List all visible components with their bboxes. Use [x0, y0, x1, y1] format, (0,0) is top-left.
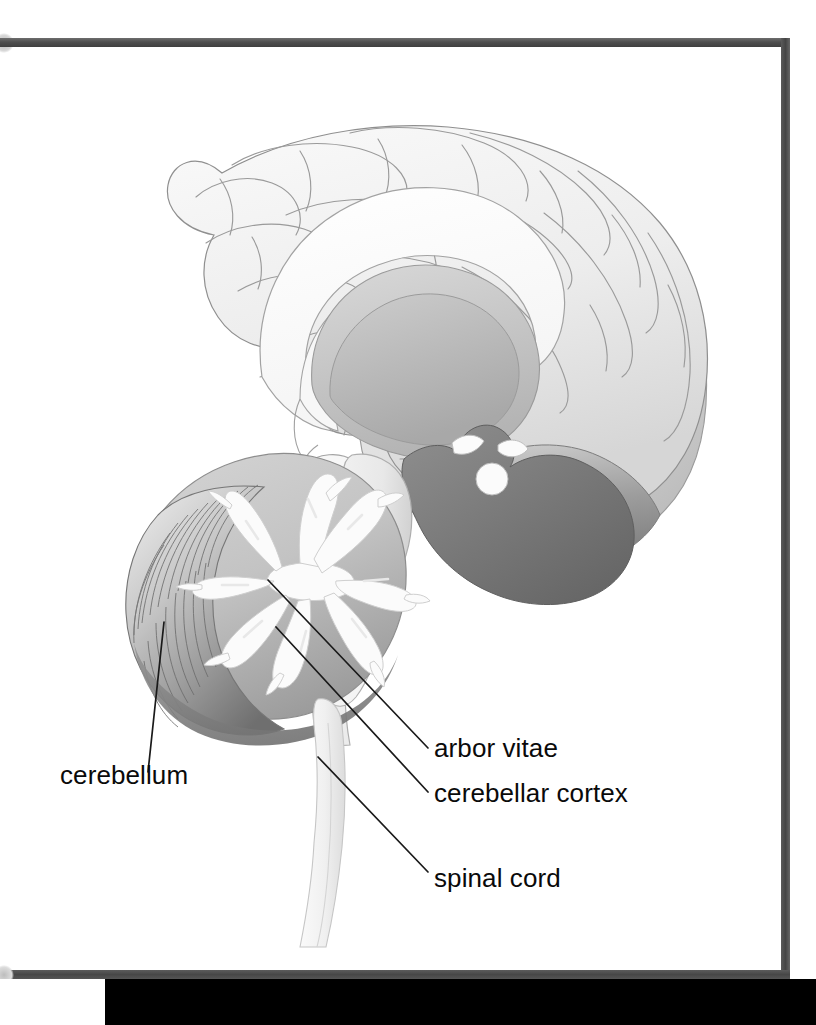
label-cerebellum: cerebellum	[60, 760, 188, 791]
page-canvas: cerebellum arbor vitae cerebellar cortex…	[0, 0, 816, 1025]
page-bottom-white-notch	[0, 979, 105, 1025]
brain-illustration	[0, 47, 790, 970]
label-cerebellar-cortex: cerebellar cortex	[434, 778, 628, 809]
page-bottom-black-band	[105, 979, 816, 1025]
page-border-bottom	[0, 970, 790, 979]
pineal-body	[476, 463, 508, 495]
label-spinal-cord: spinal cord	[434, 863, 561, 894]
label-arbor-vitae: arbor vitae	[434, 733, 558, 764]
page-border-top	[0, 38, 790, 47]
